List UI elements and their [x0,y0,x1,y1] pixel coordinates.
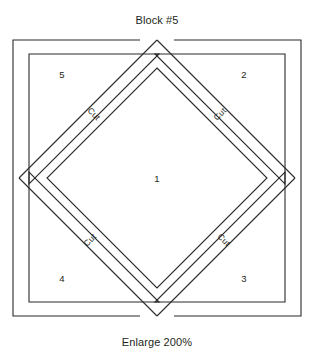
block-diagram-figure: 1 2 3 4 5 Cut Cut Cut Cut [0,26,314,330]
block-diagram-svg: 1 2 3 4 5 Cut Cut Cut Cut [0,26,314,330]
piece-label-3: 3 [241,273,246,284]
piece-label-2: 2 [241,69,246,80]
page-caption: Enlarge 200% [0,336,314,349]
piece-label-4: 4 [59,273,64,284]
cut-label-bottom-left: Cut [81,231,98,248]
piece-label-5: 5 [59,69,64,80]
cut-label-top-right: Cut [211,105,228,122]
diagram-sheet: Block #5 [0,0,314,356]
cut-label-bottom-right: Cut [216,231,233,248]
piece-label-1: 1 [154,173,159,184]
